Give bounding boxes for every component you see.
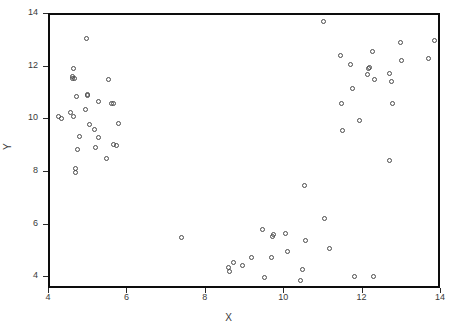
data-point	[74, 94, 79, 99]
data-point	[370, 49, 375, 54]
x-tick-label: 12	[347, 292, 377, 302]
data-point	[372, 77, 377, 82]
data-point	[398, 40, 403, 45]
data-point	[371, 274, 376, 279]
data-point	[352, 274, 357, 279]
data-point	[92, 127, 97, 132]
y-tick-label: 8	[0, 165, 38, 175]
data-point	[387, 158, 392, 163]
data-point	[85, 93, 90, 98]
data-point	[83, 107, 88, 112]
data-point	[327, 246, 332, 251]
data-point	[387, 71, 392, 76]
y-tick-label: 4	[0, 270, 38, 280]
data-point	[84, 36, 89, 41]
x-tick-label: 4	[33, 292, 63, 302]
data-point	[106, 77, 111, 82]
y-tick-label: 12	[0, 60, 38, 70]
data-point	[348, 62, 353, 67]
data-point	[283, 231, 288, 236]
data-point	[339, 101, 344, 106]
data-point	[249, 255, 254, 260]
x-tick-label: 14	[425, 292, 455, 302]
data-point	[111, 101, 116, 106]
data-point	[71, 66, 76, 71]
x-tick-label: 6	[111, 292, 141, 302]
data-point	[73, 170, 78, 175]
data-point	[365, 72, 370, 77]
data-point	[285, 249, 290, 254]
data-point	[269, 255, 274, 260]
data-point	[96, 99, 101, 104]
data-point	[93, 145, 98, 150]
data-point	[87, 122, 92, 127]
data-point	[322, 216, 327, 221]
y-tick-label: 6	[0, 218, 38, 228]
data-point	[389, 79, 394, 84]
y-tick-label: 14	[0, 7, 38, 17]
data-point	[116, 121, 121, 126]
data-point	[271, 232, 276, 237]
data-point	[231, 260, 236, 265]
data-point	[72, 76, 77, 81]
data-point	[96, 135, 101, 140]
data-points-layer	[50, 15, 438, 286]
x-axis-title: X	[0, 312, 457, 323]
data-point	[227, 269, 232, 274]
data-point	[179, 235, 184, 240]
data-point	[426, 56, 431, 61]
data-point	[260, 227, 265, 232]
x-tick-label: 10	[268, 292, 298, 302]
data-point	[303, 238, 308, 243]
plot-area-frame	[48, 13, 440, 288]
data-point	[357, 118, 362, 123]
data-point	[338, 53, 343, 58]
data-point	[300, 267, 305, 272]
data-point	[321, 19, 326, 24]
y-tick-label: 10	[0, 112, 38, 122]
data-point	[390, 101, 395, 106]
data-point	[298, 278, 303, 283]
data-point	[114, 143, 119, 148]
x-tick-label: 8	[190, 292, 220, 302]
data-point	[240, 263, 245, 268]
data-point	[350, 86, 355, 91]
data-point	[432, 38, 437, 43]
scatter-plot-figure: Y 468101214 468101214 X	[0, 0, 457, 335]
data-point	[104, 156, 109, 161]
data-point	[367, 65, 372, 70]
data-point	[340, 128, 345, 133]
data-point	[75, 147, 80, 152]
data-point	[77, 134, 82, 139]
data-point	[71, 114, 76, 119]
data-point	[262, 275, 267, 280]
y-axis-title: Y	[2, 143, 13, 150]
data-point	[399, 58, 404, 63]
data-point	[59, 116, 64, 121]
data-point	[302, 183, 307, 188]
